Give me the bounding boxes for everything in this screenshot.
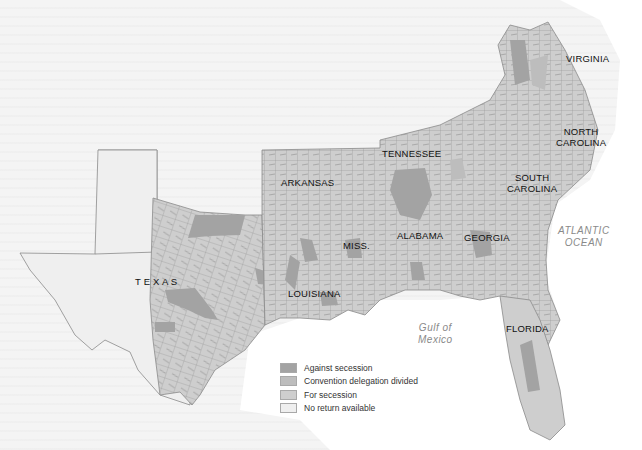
state-label-north-carolina: NORTHCAROLINA bbox=[556, 126, 606, 148]
legend-label: Against secession bbox=[304, 363, 373, 373]
state-label-texas: T E X A S bbox=[135, 276, 177, 287]
state-label-south-carolina: SOUTHCAROLINA bbox=[507, 172, 557, 194]
state-label-miss: MISS. bbox=[343, 240, 370, 251]
legend-item-divided: Convention delegation divided bbox=[280, 375, 418, 389]
legend-label: For secession bbox=[304, 390, 357, 400]
map-legend: Against secession Convention delegation … bbox=[280, 361, 418, 415]
secession-map: VIRGINIANORTHCAROLINATENNESSEESOUTHCAROL… bbox=[0, 0, 642, 450]
state-label-tennessee: TENNESSEE bbox=[382, 148, 441, 159]
water-label-gulf-of-mexico: Gulf ofMexico bbox=[418, 322, 453, 346]
legend-label: No return available bbox=[304, 403, 375, 413]
legend-item-against: Against secession bbox=[280, 361, 418, 375]
state-label-georgia: GEORGIA bbox=[464, 232, 510, 243]
legend-swatch bbox=[280, 363, 297, 373]
state-label-florida: FLORIDA bbox=[506, 323, 549, 334]
state-label-virginia: VIRGINIA bbox=[566, 53, 609, 64]
legend-item-no-return: No return available bbox=[280, 402, 418, 416]
state-label-louisiana: LOUISIANA bbox=[288, 288, 340, 299]
legend-swatch bbox=[280, 403, 297, 413]
legend-label: Convention delegation divided bbox=[304, 376, 418, 386]
legend-swatch bbox=[280, 390, 297, 400]
legend-swatch bbox=[280, 376, 297, 386]
state-label-arkansas: ARKANSAS bbox=[281, 177, 334, 188]
state-label-alabama: ALABAMA bbox=[397, 230, 443, 241]
legend-item-for: For secession bbox=[280, 388, 418, 402]
water-label-atlantic-ocean: ATLANTICOCEAN bbox=[558, 225, 610, 249]
